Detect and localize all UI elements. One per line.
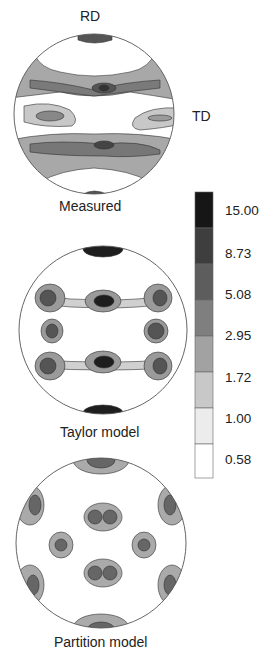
taylor-pole-figure xyxy=(0,240,200,421)
colorbar-level: 2.95 xyxy=(225,328,251,343)
partition-pole-figure xyxy=(0,446,200,642)
panel-title-partition: Partition model xyxy=(54,634,147,650)
colorbar xyxy=(195,192,213,478)
td-label: TD xyxy=(192,108,211,124)
colorbar-level: 8.73 xyxy=(225,246,251,261)
colorbar-level: 15.00 xyxy=(225,203,259,218)
rd-label: RD xyxy=(80,8,100,24)
colorbar-level: 1.00 xyxy=(225,411,251,426)
colorbar-level: 5.08 xyxy=(225,287,251,302)
panel-title-taylor: Taylor model xyxy=(60,424,139,440)
colorbar-level: 0.58 xyxy=(225,452,251,467)
panel-title-measured: Measured xyxy=(59,198,121,214)
pole-figures xyxy=(0,0,273,654)
colorbar-level: 1.72 xyxy=(225,370,251,385)
